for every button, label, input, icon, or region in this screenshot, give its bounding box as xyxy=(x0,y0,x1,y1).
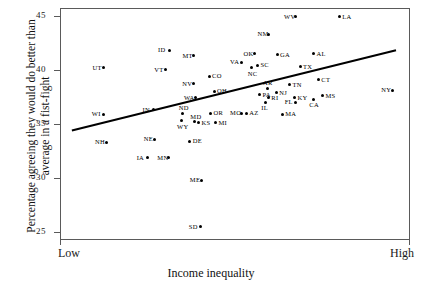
data-point[interactable] xyxy=(293,96,296,99)
data-point-label: ID xyxy=(158,46,165,53)
data-point[interactable] xyxy=(188,140,191,143)
data-point[interactable] xyxy=(192,82,195,85)
data-point[interactable] xyxy=(199,225,202,228)
data-point-label: TX xyxy=(303,63,312,70)
data-point-label: VT xyxy=(154,66,163,73)
data-point-layer: UTWINHIDVTINNEIAMNMTNVWANDWYMDKSDEMESDCO… xyxy=(0,0,422,288)
data-point-label: SC xyxy=(260,61,269,68)
data-point[interactable] xyxy=(153,138,156,141)
data-point-label: TN xyxy=(293,81,302,88)
scatter-plot-figure: Percentage agreeing they would do better… xyxy=(0,0,422,288)
data-point-label: NV xyxy=(182,80,192,87)
data-point-label: NM xyxy=(257,30,268,37)
data-point-label: MA xyxy=(285,110,296,117)
data-point[interactable] xyxy=(240,61,243,64)
data-point-label: WV xyxy=(284,13,295,20)
data-point[interactable] xyxy=(281,113,284,116)
data-point-label: NC xyxy=(248,70,258,77)
data-point[interactable] xyxy=(312,52,315,55)
data-point[interactable] xyxy=(299,65,302,68)
data-point-label: LA xyxy=(342,13,351,20)
data-point[interactable] xyxy=(146,156,149,159)
data-point-label: NH xyxy=(95,138,105,145)
data-point[interactable] xyxy=(197,121,200,124)
data-point[interactable] xyxy=(105,141,108,144)
data-point-label: IA xyxy=(137,154,144,161)
data-point-label: OH xyxy=(217,87,227,94)
data-point-label: MO xyxy=(230,109,241,116)
data-point-label: CT xyxy=(321,76,330,83)
data-point-label: RI xyxy=(271,94,278,101)
data-point[interactable] xyxy=(266,87,269,90)
data-point-label: VA xyxy=(230,58,239,65)
data-point[interactable] xyxy=(181,112,184,115)
data-point-label: DE xyxy=(193,137,202,144)
data-point[interactable] xyxy=(288,83,291,86)
data-point[interactable] xyxy=(245,112,248,115)
data-point-label: OK xyxy=(243,50,253,57)
data-point[interactable] xyxy=(275,91,278,94)
data-point-label: AL xyxy=(316,50,325,57)
data-point[interactable] xyxy=(213,90,216,93)
data-point[interactable] xyxy=(168,49,171,52)
data-point-label: UT xyxy=(93,64,102,71)
data-point-label: NJ xyxy=(279,89,287,96)
x-axis-tick-high xyxy=(409,240,410,245)
data-point[interactable] xyxy=(258,93,261,96)
x-axis-tick-low xyxy=(60,240,61,245)
data-point[interactable] xyxy=(317,78,320,81)
data-point-label: CA xyxy=(309,101,319,108)
data-point[interactable] xyxy=(321,94,324,97)
data-point-label: OR xyxy=(214,109,224,116)
data-point[interactable] xyxy=(193,120,196,123)
data-point-label: MT xyxy=(183,52,193,59)
data-point-label: MS xyxy=(326,92,336,99)
data-point-label: KS xyxy=(202,119,211,126)
data-point-label: SD xyxy=(189,223,198,230)
data-point-label: MD xyxy=(190,113,201,120)
data-point-label: MI xyxy=(218,119,227,126)
data-point[interactable] xyxy=(294,101,297,104)
data-point-label: NE xyxy=(144,135,153,142)
data-point[interactable] xyxy=(209,112,212,115)
data-point-label: IN xyxy=(143,106,150,113)
data-point-label: WY xyxy=(177,123,188,130)
data-point[interactable] xyxy=(253,52,256,55)
data-point[interactable] xyxy=(338,15,341,18)
data-point-label: KY xyxy=(298,94,308,101)
data-point[interactable] xyxy=(391,89,394,92)
data-point[interactable] xyxy=(152,108,155,111)
data-point-label: MN xyxy=(157,154,168,161)
data-point-label: GA xyxy=(280,51,290,58)
x-tick-label-low: Low xyxy=(58,246,80,261)
data-point[interactable] xyxy=(276,53,279,56)
data-point[interactable] xyxy=(214,121,217,124)
data-point-label: NY xyxy=(381,86,391,93)
data-point-label: CO xyxy=(212,72,222,79)
x-axis-label: Income inequality xyxy=(0,266,422,281)
data-point-label: AZ xyxy=(249,109,258,116)
data-point[interactable] xyxy=(267,96,270,99)
data-point[interactable] xyxy=(164,68,167,71)
data-point[interactable] xyxy=(256,64,259,67)
data-point-label: WI xyxy=(92,110,101,117)
data-point-label: ME xyxy=(190,176,200,183)
data-point-label: AR xyxy=(263,79,273,86)
data-point-label: ND xyxy=(179,104,189,111)
data-point-label: FL xyxy=(285,98,293,105)
data-point-label: IL xyxy=(261,104,268,111)
data-point[interactable] xyxy=(208,75,211,78)
data-point-label: WA xyxy=(184,94,195,101)
data-point[interactable] xyxy=(102,113,105,116)
x-tick-label-high: High xyxy=(390,246,414,261)
data-point[interactable] xyxy=(102,66,105,69)
